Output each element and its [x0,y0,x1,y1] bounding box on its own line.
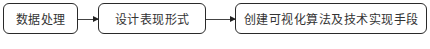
arrow-right-icon [78,19,98,20]
node-label: 设计表现形式 [115,10,190,27]
node-label: 数据处理 [16,10,66,27]
node-label: 创建可视化算法及技术实现手段 [244,10,419,27]
node-data-processing: 数据处理 [3,3,78,34]
node-design-representation: 设计表现形式 [98,3,206,34]
node-create-visualization-algorithms: 创建可视化算法及技术实现手段 [235,3,427,34]
arrow-right-icon [206,19,235,20]
